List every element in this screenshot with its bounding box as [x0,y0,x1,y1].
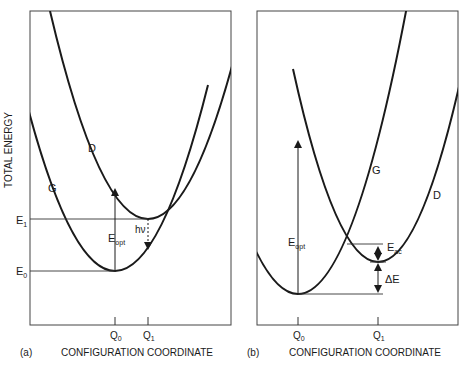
curve-label-d: D [88,142,96,154]
q0-label-a: Q0 [110,330,122,342]
y-axis-label: TOTAL ENERGY [3,112,14,188]
configuration-coordinate-diagram: TOTAL ENERGY D G E1 E0 Eopt hν Q0 Q1 (a)… [0,0,469,366]
e0-label: E0 [16,265,27,279]
hv-label: hν [135,224,146,235]
eac-label: Eac [387,241,402,255]
panel-a-tag: (a) [20,347,32,358]
defect-state-curve [50,11,246,219]
eopt-label-a: Eopt [108,232,125,247]
x-axis-label-b: CONFIGURATION COORDINATE [289,347,441,358]
x-axis-label-a: CONFIGURATION COORDINATE [61,347,213,358]
panel-b-tag: (b) [247,347,259,358]
curve-label-d-b: D [433,189,441,201]
q1-label-b: Q1 [373,330,385,342]
panel-b-frame [257,11,458,325]
eopt-label-b: Eopt [288,236,305,251]
q0-label-b: Q0 [293,330,305,342]
q1-label-a: Q1 [143,330,155,342]
delta-e-label: ΔE [385,273,400,285]
panel-a: D G E1 E0 Eopt hν Q0 Q1 (a) CONFIGURATIO… [16,11,246,358]
e1-label: E1 [16,214,27,228]
panel-b: G D Eopt Eac ΔE Q0 Q1 (b) CONFIGURATION … [186,0,463,358]
curve-label-g: G [48,182,57,194]
panel-a-frame [30,11,231,325]
curve-label-g-b: G [372,164,381,176]
